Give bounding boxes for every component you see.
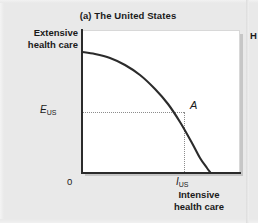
y-axis-line <box>81 29 83 174</box>
origin-label: 0 <box>67 176 72 187</box>
x-tick-label-ius: IUS <box>176 176 188 188</box>
guide-line-horizontal <box>83 112 184 114</box>
page-edge-bottom <box>0 219 258 223</box>
x-axis-label-line2: health care <box>174 201 224 212</box>
point-label-a: A <box>190 99 197 111</box>
panel-title: (a) The United States <box>62 10 194 21</box>
y-axis-label-line1: Extensive <box>34 27 78 38</box>
y-tick-subscript: US <box>47 109 57 116</box>
guide-line-vertical <box>184 112 186 172</box>
y-tick-label-eus: EUS <box>40 104 56 116</box>
x-axis-label-line1: Intensive <box>178 189 219 200</box>
figure-panel-united-states: (a) The United States Extensive health c… <box>0 0 258 223</box>
page-edge-top <box>0 0 258 3</box>
x-tick-subscript: US <box>179 181 189 188</box>
adjacent-panel-divider <box>246 0 249 223</box>
x-axis-label: Intensive health care <box>150 189 248 212</box>
adjacent-panel-letter: H <box>250 30 257 41</box>
y-tick-symbol: E <box>40 104 47 115</box>
plot-area <box>81 30 240 173</box>
x-axis-line <box>81 172 241 174</box>
y-axis-label-line2: health care <box>28 39 78 50</box>
y-axis-label: Extensive health care <box>4 27 78 50</box>
